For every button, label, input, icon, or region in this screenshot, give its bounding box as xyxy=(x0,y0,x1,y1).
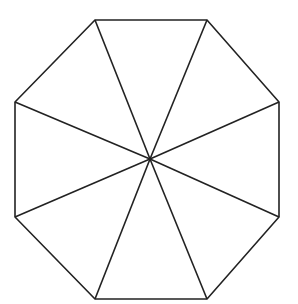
octagon-diagram xyxy=(0,0,298,304)
